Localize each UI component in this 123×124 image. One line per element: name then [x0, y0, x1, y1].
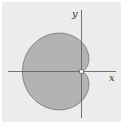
- origin-marker: [79, 69, 83, 73]
- cardioid-figure: y x: [0, 0, 123, 124]
- x-axis-label: x: [109, 72, 115, 83]
- y-axis-label: y: [71, 8, 78, 19]
